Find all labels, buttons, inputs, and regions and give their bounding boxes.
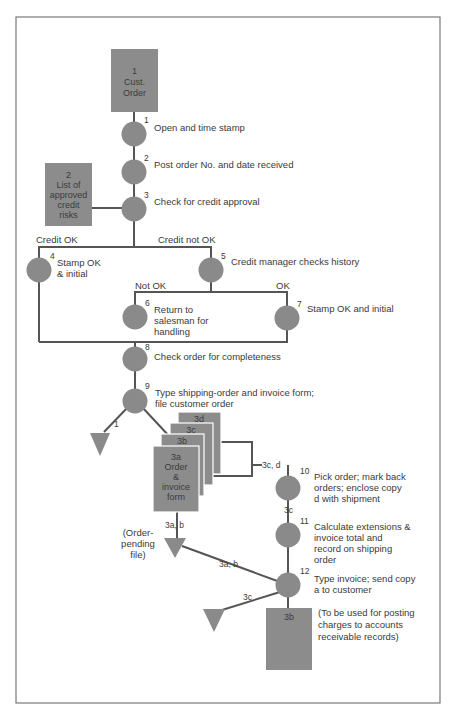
step-node-5 xyxy=(199,258,224,283)
file-triangle-icon xyxy=(203,609,225,632)
step-text: Pick order; mark back xyxy=(314,471,406,482)
step-number: 8 xyxy=(145,342,150,352)
step-node-9 xyxy=(123,389,148,414)
step-text: Check order for completeness xyxy=(154,351,281,362)
step-number: 7 xyxy=(297,299,302,309)
doc-label: & xyxy=(173,472,179,482)
step-node-1 xyxy=(122,122,147,147)
doc-number: 2 xyxy=(66,170,71,180)
doc-label: Order xyxy=(123,88,146,98)
doc-label: 3b xyxy=(284,612,294,622)
step-text: Stamp OK and initial xyxy=(307,303,394,314)
step-text: Type invoice; send copy xyxy=(314,573,416,584)
connector xyxy=(142,407,170,437)
note-text: receivable records) xyxy=(318,631,399,642)
flow-label: 3a, b xyxy=(219,559,238,569)
step-text: Credit manager checks history xyxy=(231,256,360,267)
step-text: a to customer xyxy=(314,584,372,595)
doc-label: List of xyxy=(56,180,81,190)
note-text: charges to accounts xyxy=(318,619,403,630)
flow-label: 1 xyxy=(114,419,119,429)
step-number: 5 xyxy=(221,251,226,261)
branch-label: Credit OK xyxy=(36,234,78,245)
step-text: Type shipping-order and invoice form; xyxy=(155,387,314,398)
step-number: 2 xyxy=(144,153,149,163)
doc-label: Cust. xyxy=(124,77,145,87)
step-text: Check for credit approval xyxy=(154,196,260,207)
step-number: 12 xyxy=(300,566,310,576)
step-number: 11 xyxy=(300,516,309,526)
step-node-7 xyxy=(275,306,300,331)
step-text: record on shipping xyxy=(314,543,392,554)
flowchart-diagram: 1 Cust. Order 2 List of approved credit … xyxy=(0,0,453,719)
step-number: 10 xyxy=(300,466,310,476)
step-node-12 xyxy=(276,573,301,598)
flow-label: 3a, b xyxy=(165,520,184,530)
file-triangle-icon xyxy=(90,433,110,456)
step-text: handling xyxy=(154,326,190,337)
file-label: file) xyxy=(130,549,145,560)
doc-label: approved xyxy=(50,190,88,200)
step-text: invoice total and xyxy=(314,532,383,543)
step-number: 3 xyxy=(144,190,149,200)
doc-number: 3a xyxy=(171,452,181,462)
doc-label: invoice xyxy=(162,482,190,492)
doc-label: Order xyxy=(164,462,187,472)
doc-number: 1 xyxy=(132,66,137,76)
step-number: 6 xyxy=(145,298,150,308)
branch-label: OK xyxy=(276,280,290,291)
order-pending-file-triangle-icon xyxy=(164,538,186,558)
step-node-2 xyxy=(122,160,147,185)
step-text: d with shipment xyxy=(314,493,380,504)
step-node-3 xyxy=(122,197,147,222)
step-text: order xyxy=(314,554,336,565)
step-number: 1 xyxy=(144,115,149,125)
doc-label: 3b xyxy=(177,436,187,446)
doc-label: form xyxy=(167,492,185,502)
step-text: Calculate extensions & xyxy=(314,521,411,532)
step-text: orders; enclose copy xyxy=(314,482,402,493)
step-text: Return to xyxy=(154,304,193,315)
file-label: pending xyxy=(121,538,155,549)
step-node-6 xyxy=(123,305,148,330)
doc-label: credit xyxy=(57,200,80,210)
note-text: (To be used for posting xyxy=(318,607,415,618)
branch-label: Credit not OK xyxy=(158,234,216,245)
file-label: (Order- xyxy=(123,527,154,538)
step-text: Post order No. and date received xyxy=(154,159,293,170)
step-text: & initial xyxy=(57,268,88,279)
step-text: salesman for xyxy=(154,315,208,326)
step-node-11 xyxy=(276,523,301,548)
step-text: Stamp OK xyxy=(57,257,101,268)
step-number: 9 xyxy=(145,381,150,391)
step-node-4 xyxy=(27,258,52,283)
branch-label: Not OK xyxy=(135,280,167,291)
step-text: file customer order xyxy=(155,398,234,409)
flow-label: 3c, d xyxy=(262,460,281,470)
flow-label: 3c xyxy=(284,505,294,515)
step-text: Open and time stamp xyxy=(154,122,245,133)
doc-label: risks xyxy=(59,210,78,220)
flow-label: 3c xyxy=(243,592,253,602)
step-node-8 xyxy=(123,347,148,372)
step-node-10 xyxy=(276,476,301,501)
step-number: 4 xyxy=(50,251,55,261)
